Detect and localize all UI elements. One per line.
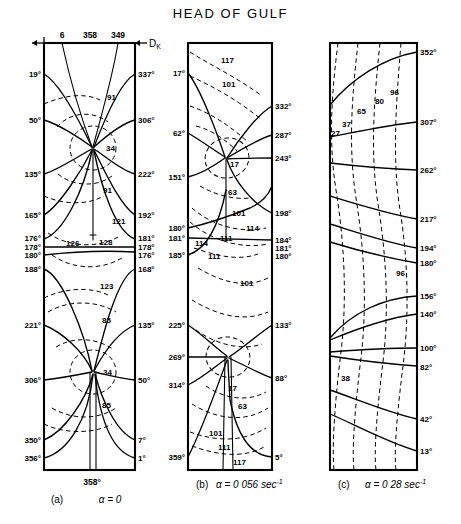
- panel-a-right-label: 1°: [138, 454, 146, 463]
- panel-a-top-label-1: 6: [60, 30, 65, 40]
- panel-c-right-label: 217°: [420, 215, 437, 224]
- panel-a-interior-label: 85: [102, 401, 111, 410]
- panel-a-left-label: 135°: [24, 170, 41, 179]
- panel-a-interior-label: 128: [99, 238, 113, 247]
- panel-a-top-label-2: 358: [83, 30, 97, 40]
- panel-b-right-label: 287°: [275, 131, 292, 140]
- panel-a-right-labels: 337° 306° 222° 192° 181° 178° 176° 168° …: [138, 70, 155, 463]
- panel-c-right-label: 262°: [420, 166, 437, 175]
- width-arrow-marker: [32, 37, 44, 50]
- panel-a-left-label: 19°: [29, 70, 41, 79]
- panel-b-right-label: 198°: [275, 209, 292, 218]
- panel-c-interior-label: 65: [357, 107, 366, 116]
- panel-a-interior-label: 126: [66, 239, 80, 248]
- panel-b-interior-label: 101: [240, 279, 254, 288]
- dk-label: DK: [149, 38, 161, 50]
- panel-a-cotidal-lines-lower: [44, 269, 135, 470]
- panel-a-interior-label: 91: [107, 93, 116, 102]
- panel-a-right-label: 192°: [138, 211, 155, 220]
- panel-c: 352° 307° 262° 217° 194° 180° 156° 140° …: [330, 43, 437, 490]
- dk-arrow-marker: [135, 40, 147, 46]
- panel-a-caption-value: α = 0: [99, 494, 122, 505]
- figure-root: HEAD OF GULF DK 6 358 349: [0, 0, 461, 524]
- panel-b-left-label: 17°: [173, 69, 185, 78]
- panel-b-right-labels: 332° 287° 243° 198° 184° 181° 180° 133° …: [275, 102, 292, 462]
- panel-b-left-label: 225°: [168, 321, 185, 330]
- panel-a-right-label: 7°: [138, 436, 146, 445]
- panel-b-left-label: 359°: [168, 453, 185, 462]
- panel-b-left-label: 314°: [168, 381, 185, 390]
- panel-a: DK 6 358 349: [24, 30, 161, 505]
- panel-c-corange-lines: [332, 43, 408, 470]
- panel-c-right-label: 100°: [420, 344, 437, 353]
- panel-a-left-label: 188°: [24, 265, 41, 274]
- panel-c-right-label: 180°: [420, 259, 437, 268]
- panel-a-left-label: 165°: [24, 211, 41, 220]
- panel-c-right-label: 42°: [420, 415, 432, 424]
- panel-a-left-label: 356°: [24, 454, 41, 463]
- panel-b-interior-label: 17: [230, 160, 239, 169]
- panel-c-right-label: 82°: [420, 363, 432, 372]
- panel-a-right-label: 168°: [138, 265, 155, 274]
- panel-c-caption-label: (c): [338, 479, 350, 490]
- panel-b-right-label: 88°: [275, 374, 287, 383]
- panel-a-interior-label: 121: [112, 217, 126, 226]
- panel-a-right-label: 222°: [138, 170, 155, 179]
- panel-a-left-label: 50°: [29, 116, 41, 125]
- panel-a-interior-label: 34: [103, 368, 112, 377]
- panel-b-interior-label: 101: [209, 429, 223, 438]
- panel-b: 17° 62° 151° 180° 181° 185° 225° 269° 31…: [168, 43, 291, 490]
- panel-b-left-label: 62°: [173, 129, 185, 138]
- panel-c-interior-label: 80: [375, 97, 384, 106]
- panel-b-interior-label: 117: [221, 56, 234, 65]
- panel-b-interior-labels: 117 101 17 63 101 114 111 114 111 101 17…: [195, 56, 259, 467]
- panel-b-interior-label: 114: [195, 239, 208, 248]
- panel-c-interior-label: 27: [331, 129, 340, 138]
- panel-b-right-label: 133°: [275, 321, 292, 330]
- panel-a-right-label: 181°: [138, 234, 155, 243]
- panel-a-right-label: 306°: [138, 116, 155, 125]
- panel-b-left-label: 180°: [168, 224, 185, 233]
- panel-b-interior-label: 63: [228, 188, 237, 197]
- panel-a-right-label: 337°: [138, 70, 155, 79]
- panel-b-caption-label: (b): [196, 479, 208, 490]
- panel-c-caption-value: α = 0 28 sec-1: [365, 478, 426, 490]
- panel-b-interior-label: 111: [220, 234, 233, 243]
- panel-a-bottom-label: 358°: [83, 477, 101, 487]
- panel-c-right-label: 13°: [420, 447, 432, 456]
- panel-c-right-label: 140°: [420, 310, 437, 319]
- panel-b-interior-label: 101: [222, 80, 236, 89]
- panel-a-caption-label: (a): [51, 494, 63, 505]
- panel-a-left-label: 180°: [24, 251, 41, 260]
- panel-c-right-label: 307°: [420, 118, 437, 127]
- panel-c-interior-label: 96: [390, 88, 399, 97]
- panel-b-interior-label: 111: [218, 443, 231, 452]
- panel-b-interior-label: 117: [233, 458, 246, 467]
- panel-b-caption-value: α = 0 056 sec-1: [216, 478, 283, 490]
- panel-c-right-label: 352°: [420, 48, 437, 57]
- panel-b-frame: [188, 43, 272, 470]
- panel-a-right-label: 176°: [138, 251, 155, 260]
- panel-a-corange-lines-lower: [44, 289, 116, 431]
- panel-b-corange-lines: [190, 52, 268, 454]
- panel-b-right-label: 180°: [275, 252, 292, 261]
- panel-c-right-label: 194°: [420, 244, 437, 253]
- panel-b-interior-label: 63: [238, 402, 247, 411]
- panel-a-top-label-3: 349: [111, 30, 125, 40]
- panel-b-left-label: 269°: [168, 353, 185, 362]
- panel-c-right-label: 156°: [420, 292, 437, 301]
- panel-b-left-label: 181°: [168, 234, 185, 243]
- panel-b-right-label: 243°: [275, 154, 292, 163]
- panel-b-interior-label: 101: [232, 209, 246, 218]
- panel-a-interior-label: 34: [106, 144, 115, 153]
- panel-c-right-labels: 352° 307° 262° 217° 194° 180° 156° 140° …: [420, 48, 437, 456]
- panel-a-interior-label: 91: [103, 186, 112, 195]
- panel-a-left-label: 176°: [24, 234, 41, 243]
- panel-b-left-labels: 17° 62° 151° 180° 181° 185° 225° 269° 31…: [168, 69, 185, 462]
- panel-b-left-label: 185°: [168, 251, 185, 260]
- panel-a-left-labels: 19° 50° 135° 165° 176° 178° 180° 188° 22…: [24, 70, 41, 463]
- panel-b-interior-label: 111: [208, 252, 221, 261]
- panel-a-interior-label: 123: [100, 282, 114, 291]
- panel-b-interior-label: 114: [246, 224, 259, 233]
- panel-b-right-label: 332°: [275, 102, 292, 111]
